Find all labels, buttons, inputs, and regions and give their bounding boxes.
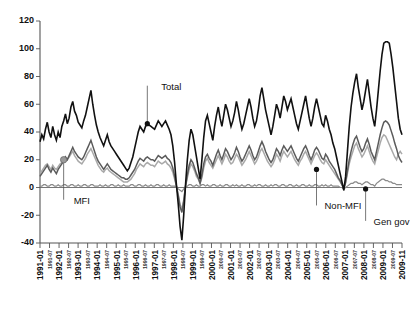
x-tick-label-minor: 1995-07	[123, 250, 129, 269]
annotation-label-gen-gov: Gen gov	[374, 216, 410, 227]
line-chart: -40-20020406080100120 1991-011991-071992…	[0, 0, 420, 330]
x-tick-label-major: 1997-01	[151, 250, 160, 280]
x-tick-label-minor: 2003-07	[275, 250, 281, 269]
chart-container: -40-20020406080100120 1991-011991-071992…	[0, 0, 420, 330]
x-tick-label-major: 1991-01	[36, 250, 45, 280]
x-tick-label-minor: 2004-07	[295, 250, 301, 269]
x-tick-label-major: 2006-01	[322, 250, 331, 280]
y-tick-label: 80	[24, 71, 34, 81]
x-tick-label-minor: 2009-07	[390, 250, 396, 269]
x-tick-label-major: 2002-01	[246, 250, 255, 280]
x-tick-label-major: 2007-01	[341, 250, 350, 280]
x-tick-label-minor: 2006-07	[333, 250, 339, 269]
annotation-marker	[314, 167, 319, 172]
annotation-label-non-mfi: Non-MFI	[325, 200, 362, 211]
y-tick-label: 20	[24, 154, 34, 164]
x-tick-label-minor: 2000-07	[218, 250, 224, 269]
x-tick-label-minor: 2005-07	[314, 250, 320, 269]
x-tick-label-major: 2005-01	[303, 250, 312, 280]
x-tick-label-minor: 1993-07	[85, 250, 91, 269]
y-tick-label: -40	[21, 237, 34, 247]
series-annotations: TotalMFINon-MFIGen gov	[60, 81, 409, 227]
annotation-marker	[145, 121, 150, 126]
y-axis: -40-20020406080100120	[19, 15, 40, 247]
annotation-label-total: Total	[161, 81, 181, 92]
x-tick-label-major: 2003-01	[265, 250, 274, 280]
x-tick-label-minor: 2007-07	[352, 250, 358, 269]
x-tick-label-major: 2001-01	[227, 250, 236, 280]
x-tick-label-major: 1996-01	[132, 250, 141, 280]
annotation-marker	[363, 186, 368, 191]
x-tick-label-minor: 1994-07	[104, 250, 110, 269]
annotation-marker	[60, 157, 66, 163]
x-tick-label-major: 1994-01	[93, 250, 102, 280]
y-tick-label: 40	[24, 126, 34, 136]
x-tick-label-major: 2008-01	[360, 250, 369, 280]
annotation-label-mfi: MFI	[74, 195, 90, 206]
y-tick-label: 120	[19, 15, 34, 25]
x-axis: 1991-011991-071992-011992-071993-011993-…	[36, 243, 407, 280]
x-tick-label-major: 1992-01	[55, 250, 64, 280]
x-tick-label-minor: 1998-07	[180, 250, 186, 269]
x-tick-label-major: 2009-11	[398, 250, 407, 280]
series-line-gen-gov	[40, 179, 402, 191]
x-tick-label-major: 2000-01	[208, 250, 217, 280]
x-tick-label-major: 1995-01	[113, 250, 122, 280]
x-tick-label-minor: 2008-07	[371, 250, 377, 269]
y-tick-label: 0	[29, 182, 34, 192]
x-tick-label-minor: 1999-07	[199, 250, 205, 269]
y-tick-label: 60	[24, 99, 34, 109]
x-tick-label-major: 2009-01	[379, 250, 388, 280]
series-line-non-mfi	[40, 121, 402, 213]
x-tick-label-minor: 2002-07	[256, 250, 262, 269]
x-tick-label-major: 1998-01	[170, 250, 179, 280]
x-tick-label-major: 1993-01	[74, 250, 83, 280]
y-tick-label: 100	[19, 43, 34, 53]
x-tick-label-major: 1999-01	[189, 250, 198, 280]
y-tick-label: -20	[21, 210, 34, 220]
x-tick-label-minor: 2001-07	[237, 250, 243, 269]
x-tick-label-major: 2004-01	[284, 250, 293, 280]
x-tick-label-minor: 1991-07	[47, 250, 53, 269]
x-tick-label-minor: 1996-07	[142, 250, 148, 269]
x-tick-label-minor: 1997-07	[161, 250, 167, 269]
x-tick-label-minor: 1992-07	[66, 250, 72, 269]
